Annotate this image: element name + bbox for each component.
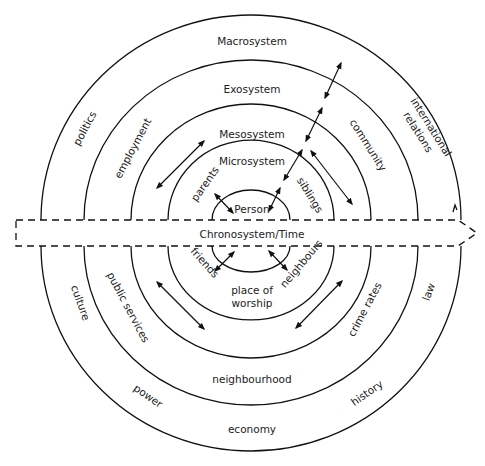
- label-chronosystem: Chronosystem/Time: [200, 228, 305, 240]
- label-worship: worship: [231, 297, 272, 309]
- lower-rings: [41, 246, 461, 451]
- label-neighbourhood: neighbourhood: [212, 373, 291, 385]
- label-mesosystem: Mesosystem: [219, 128, 284, 140]
- label-parents: parents: [188, 164, 221, 204]
- arrow-meso-left-upper: [157, 141, 204, 188]
- ecological-systems-diagram: Macrosystem Exosystem Mesosystem Microsy…: [0, 0, 485, 466]
- label-microsystem: Microsystem: [219, 155, 285, 167]
- chronosystem-band-tip-mark: [453, 205, 457, 212]
- label-law: law: [420, 281, 438, 302]
- label-culture: culture: [69, 283, 93, 322]
- label-economy: economy: [228, 423, 276, 435]
- label-community: community: [348, 117, 390, 174]
- label-politics: politics: [70, 109, 98, 147]
- label-macrosystem: Macrosystem: [217, 35, 287, 47]
- arrow-meso-left-lower: [157, 282, 204, 329]
- label-siblings: siblings: [295, 175, 326, 215]
- label-neighbours: neighbours: [277, 237, 324, 290]
- macrosystem-ring-lower: [41, 246, 461, 451]
- person-ring-lower: [212, 246, 290, 272]
- arrow-meso-micro: [284, 150, 302, 180]
- label-place-of: place of: [231, 284, 273, 296]
- label-person: Person: [234, 203, 269, 215]
- label-history: history: [348, 377, 384, 408]
- label-employment: employment: [112, 116, 154, 180]
- diagram-canvas: Macrosystem Exosystem Mesosystem Microsy…: [0, 0, 485, 466]
- label-power: power: [132, 381, 166, 410]
- label-friends: friends: [188, 245, 221, 280]
- label-exosystem: Exosystem: [224, 83, 281, 95]
- arrow-micro-person: [269, 188, 280, 211]
- arrow-macro-exo: [325, 63, 341, 98]
